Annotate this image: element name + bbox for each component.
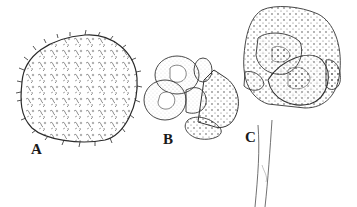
- illustration-figure: A B C: [0, 0, 357, 207]
- panel-label-c: C: [245, 130, 256, 145]
- panel-a-cell: [16, 30, 142, 147]
- panel-c-cluster: [244, 7, 341, 207]
- panel-label-b: B: [163, 132, 173, 147]
- panel-b-cluster: [144, 56, 238, 139]
- drawing-canvas: [0, 0, 357, 207]
- panel-label-a: A: [31, 142, 42, 157]
